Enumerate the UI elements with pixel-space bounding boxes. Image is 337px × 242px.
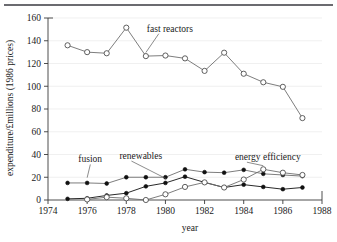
series-line-fast-reactors — [68, 28, 303, 118]
x-tick-label: 1988 — [313, 206, 332, 216]
data-point — [300, 172, 305, 177]
data-point — [85, 181, 89, 185]
data-point — [183, 175, 187, 179]
y-tick-label: 100 — [27, 82, 42, 92]
y-tick-label: 0 — [36, 195, 41, 205]
data-point — [104, 195, 109, 200]
x-tick-label: 1976 — [78, 206, 97, 216]
data-point — [105, 182, 109, 186]
line-chart: 020406080100120140160 197419761978198019… — [0, 0, 337, 242]
data-point — [124, 175, 128, 179]
data-point — [280, 170, 285, 175]
data-point — [143, 54, 148, 59]
data-point — [143, 197, 148, 202]
data-point — [301, 186, 305, 190]
annotation-leader-line — [247, 162, 263, 166]
y-tick-label: 80 — [32, 104, 42, 114]
data-point — [104, 51, 109, 56]
series-label-renewables: renewables — [119, 151, 162, 161]
data-point — [85, 50, 90, 55]
data-point — [242, 168, 246, 172]
data-point — [66, 181, 70, 185]
data-point — [144, 175, 148, 179]
data-point — [222, 171, 226, 175]
data-point — [182, 56, 187, 61]
x-tick-label: 1980 — [156, 206, 175, 216]
annotation-leader-line — [146, 34, 159, 53]
y-tick-label: 40 — [32, 150, 42, 160]
x-tick-label: 1986 — [273, 206, 292, 216]
chart-figure: 020406080100120140160 197419761978198019… — [0, 0, 337, 242]
y-tick-label: 20 — [32, 173, 42, 183]
x-axis-title: year — [182, 223, 199, 233]
data-point — [163, 192, 168, 197]
x-tick-label: 1974 — [39, 206, 58, 216]
data-point — [66, 197, 70, 201]
x-tick-label: 1978 — [117, 206, 136, 216]
data-point — [280, 84, 285, 89]
data-point — [124, 191, 128, 195]
data-point — [281, 187, 285, 191]
annotation-leader-line — [131, 161, 166, 179]
data-point — [261, 172, 265, 176]
y-tick-label: 60 — [32, 127, 42, 137]
data-point — [261, 185, 265, 189]
data-point — [203, 170, 207, 174]
series-label-fusion: fusion — [78, 154, 102, 164]
data-point — [183, 167, 187, 171]
data-point — [261, 167, 266, 172]
data-point — [222, 50, 227, 55]
x-tick-label: 1984 — [234, 206, 253, 216]
series-lines-group — [68, 28, 303, 200]
data-point — [241, 177, 246, 182]
data-point — [164, 181, 168, 185]
series-label-fast-reactors: fast reactors — [147, 24, 193, 34]
data-point — [182, 184, 187, 189]
y-tick-labels-group: 020406080100120140160 — [27, 13, 42, 205]
data-point — [144, 184, 148, 188]
data-point — [163, 53, 168, 58]
data-point — [222, 185, 227, 190]
x-tick-label: 1982 — [195, 206, 214, 216]
y-tick-label: 160 — [27, 13, 42, 23]
data-point — [202, 180, 207, 185]
annotation-leader-line — [87, 164, 90, 177]
data-point — [261, 80, 266, 85]
data-point — [241, 71, 246, 76]
y-tick-label: 140 — [27, 36, 42, 46]
y-tick-label: 120 — [27, 59, 42, 69]
data-point — [124, 25, 129, 30]
series-label-energy-efficiency: energy efficiency — [235, 152, 301, 162]
data-point — [124, 196, 129, 201]
series-markers-group — [65, 25, 305, 203]
data-point — [300, 116, 305, 121]
data-point — [242, 183, 246, 187]
data-point — [202, 68, 207, 73]
x-tick-labels-group: 19741976197819801982198419861988 — [39, 206, 332, 216]
data-point — [65, 43, 70, 48]
data-point — [85, 197, 90, 202]
y-axis-title: expenditure/£millions (1986 prices) — [5, 40, 16, 176]
